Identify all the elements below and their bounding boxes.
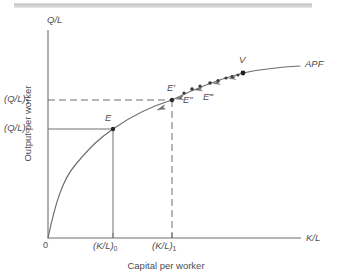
point-V	[241, 71, 246, 76]
y-tick-label-QL0: (Q/L)0	[4, 123, 30, 133]
point-label-E-prime: E′	[167, 83, 175, 93]
curve-label-apf: APF	[305, 59, 323, 69]
x-tick-label-KL1-text: (K/L)	[152, 240, 173, 251]
x-axis-title: Capital per worker	[96, 260, 236, 271]
point-label-E: E	[105, 113, 111, 123]
x-axis-symbol-label: K/L	[306, 233, 320, 243]
x-tick-label-KL1-sub: 1	[173, 245, 177, 252]
y-tick-label-QL0-text: (Q/L)	[4, 122, 26, 133]
y-tick-label-QL1: (Q/L)1	[4, 94, 30, 104]
origin-label: 0	[43, 241, 48, 250]
figure-container: Q/L K/L Output per worker Capital per wo…	[0, 0, 339, 276]
point-label-E-double-prime: E″	[183, 95, 193, 105]
y-tick-label-QL1-sub: 1	[26, 98, 30, 105]
point-E	[111, 127, 115, 131]
y-axis-symbol-label: Q/L	[47, 15, 62, 25]
y-tick-label-QL0-sub: 0	[26, 127, 30, 134]
point-E-prime	[170, 98, 174, 102]
x-tick-label-KL0-sub: 0	[114, 245, 118, 252]
x-tick-label-KL0-text: (K/L)	[93, 240, 114, 251]
x-tick-label-KL1: (K/L)1	[152, 241, 177, 251]
x-tick-label-KL0: (K/L)0	[93, 241, 118, 251]
chart-canvas	[0, 0, 339, 276]
point-label-V: V	[239, 55, 245, 65]
y-tick-label-QL1-text: (Q/L)	[4, 93, 26, 104]
point-label-E-triple-prime: E‴	[203, 92, 213, 102]
